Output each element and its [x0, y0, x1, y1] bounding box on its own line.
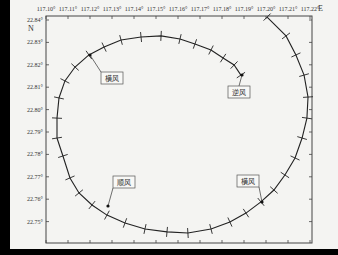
x-tick-label: 117.17°: [191, 6, 210, 12]
y-tick-label: 22.77°: [27, 174, 44, 180]
x-tick-label: 117.20°: [257, 6, 276, 12]
y-tick-label: 22.80°: [27, 107, 44, 113]
callout-label: 横风: [241, 177, 255, 186]
y-tick-label: 22.82°: [27, 62, 44, 68]
x-tick-label: 117.19°: [235, 6, 254, 12]
callout-label: 横风: [105, 74, 119, 83]
y-axis-ticks: 22.84°22.83°22.82°22.81°22.80°22.79°22.7…: [27, 17, 312, 225]
trajectory-marker: [209, 46, 213, 55]
callout-point: [260, 200, 263, 203]
y-tick-label: 22.81°: [27, 84, 44, 90]
callout-label: 逆风: [232, 88, 246, 97]
callout-point: [88, 53, 91, 56]
y-tick-label: 22.84°: [27, 17, 44, 23]
trajectory-series: [52, 14, 313, 238]
plot-frame: [46, 16, 312, 243]
x-tick-label: 117.13°: [103, 6, 122, 12]
x-tick-label: 117.15°: [147, 6, 166, 12]
callout-leader: [108, 188, 113, 206]
x-axis-ticks: 117.10°117.11°117.12°117.13°117.14°117.1…: [37, 6, 320, 243]
y-tick-label: 22.83°: [27, 39, 44, 45]
trajectory-marker: [220, 54, 225, 62]
trajectory-marker: [243, 209, 248, 217]
callout-leader: [90, 55, 101, 72]
callout-label: 顺风: [117, 179, 131, 187]
x-axis-label: E: [318, 4, 323, 13]
x-tick-label: 117.11°: [59, 6, 78, 12]
trajectory-marker: [105, 211, 110, 220]
y-axis-label: N: [28, 24, 34, 33]
x-tick-label: 117.10°: [37, 6, 56, 12]
callout-point: [106, 204, 109, 207]
y-tick-label: 22.76°: [27, 196, 44, 202]
y-tick-label: 22.78°: [27, 151, 44, 157]
trajectory-marker: [281, 172, 289, 178]
x-tick-label: 117.18°: [213, 6, 232, 12]
x-tick-label: 117.16°: [169, 6, 188, 12]
trajectory-marker: [141, 32, 142, 42]
wind-callouts: 横风逆风顺风横风: [88, 53, 263, 207]
callout-point: [240, 73, 243, 76]
x-tick-label: 117.21°: [279, 6, 298, 12]
y-tick-label: 22.75°: [27, 219, 44, 225]
trajectory-marker: [188, 228, 189, 238]
trajectory-marker: [102, 43, 106, 52]
y-tick-label: 22.79°: [27, 129, 44, 135]
trajectory-line: [57, 17, 308, 233]
x-tick-label: 117.14°: [125, 6, 144, 12]
trajectory-marker: [231, 61, 238, 68]
x-tick-label: 117.12°: [81, 6, 100, 12]
trajectory-chart: 117.10°117.11°117.12°117.13°117.14°117.1…: [0, 0, 338, 255]
trajectory-marker: [161, 31, 162, 41]
trajectory-marker: [167, 227, 168, 237]
callout-leader: [239, 75, 242, 86]
